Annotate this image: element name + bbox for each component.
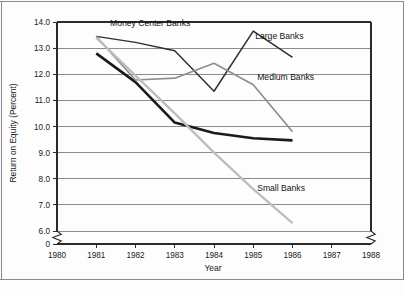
y-tick-label-6.0: 6.0: [39, 227, 51, 236]
y-tick-label-14.0: 14.0: [34, 18, 50, 27]
x-tick-label-1988: 1988: [362, 251, 381, 260]
chart-figure: 06.07.08.09.010.011.012.013.014.0 198019…: [0, 0, 404, 295]
x-axis-tick-labels: 198019811982198319841985198619871988: [48, 251, 381, 260]
x-tick-label-1984: 1984: [205, 251, 224, 260]
y-axis-title: Return on Equity (Percent): [8, 83, 18, 182]
y-tick-label-13.0: 13.0: [34, 44, 50, 53]
y-tick-label-12.0: 12.0: [34, 70, 50, 79]
x-tick-label-1983: 1983: [166, 251, 185, 260]
x-tick-label-1980: 1980: [48, 251, 67, 260]
y-tick-label-11.0: 11.0: [35, 96, 51, 105]
series-label-large-banks: Large Banks: [255, 31, 303, 41]
y-tick-label-10.0: 10.0: [34, 123, 50, 132]
line-chart: 06.07.08.09.010.011.012.013.014.0 198019…: [0, 0, 404, 295]
x-tick-label-1986: 1986: [283, 251, 302, 260]
series-label-small-banks: Small Banks: [257, 183, 305, 193]
y-tick-label-9.0: 9.0: [39, 149, 51, 158]
x-tick-label-1982: 1982: [126, 251, 145, 260]
x-axis-title: Year: [205, 263, 222, 273]
y-tick-label-7.0: 7.0: [39, 201, 51, 210]
x-tick-label-1987: 1987: [323, 251, 342, 260]
y-tick-label-0: 0: [45, 240, 50, 249]
series-label-medium-banks: Medium Banks: [257, 72, 314, 82]
x-tick-label-1981: 1981: [87, 251, 106, 260]
x-tick-label-1985: 1985: [244, 251, 263, 260]
y-tick-label-8.0: 8.0: [39, 175, 51, 184]
series-label-money-center-banks: Money Center Banks: [110, 18, 190, 28]
